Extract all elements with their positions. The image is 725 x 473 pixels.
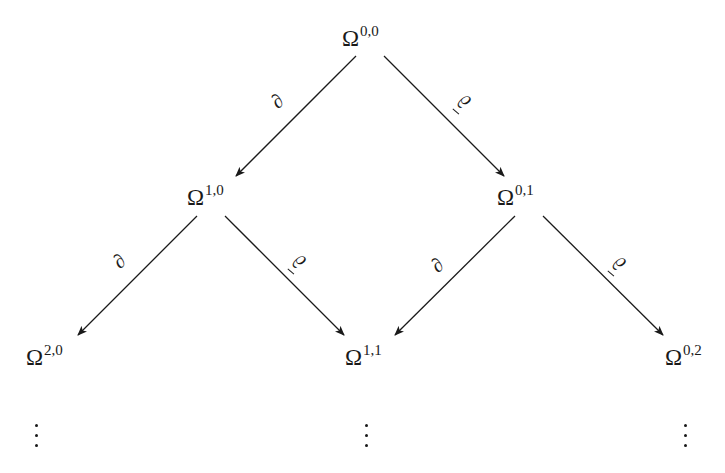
arrow-layer (0, 0, 725, 473)
bidegree: 2,0 (44, 342, 63, 358)
omega-symbol: Ω (497, 185, 514, 210)
node-omega-1-1: Ω1,1 (345, 346, 382, 369)
node-omega-0-0: Ω0,0 (342, 27, 379, 50)
omega-symbol: Ω (187, 185, 204, 210)
omega-symbol: Ω (345, 345, 362, 370)
bidegree: 1,1 (363, 342, 382, 358)
continuation-dots-right (684, 424, 688, 454)
bidegree: 1,0 (205, 182, 224, 198)
arrow-d-10-20 (78, 216, 197, 335)
bidegree: 0,2 (683, 342, 702, 358)
bidegree: 0,1 (515, 182, 534, 198)
node-omega-1-0: Ω1,0 (187, 186, 224, 209)
arrow-dbar-00-01 (384, 56, 504, 176)
omega-symbol: Ω (26, 345, 43, 370)
continuation-dots-center (365, 424, 369, 454)
node-omega-0-1: Ω0,1 (497, 186, 534, 209)
arrow-d-01-11 (395, 216, 515, 335)
continuation-dots-left (35, 424, 39, 454)
omega-symbol: Ω (665, 345, 682, 370)
omega-symbol: Ω (342, 26, 359, 51)
arrow-dbar-01-02 (543, 216, 663, 335)
bidegree: 0,0 (360, 23, 379, 39)
node-omega-2-0: Ω2,0 (26, 346, 63, 369)
arrow-d-00-10 (236, 56, 356, 176)
node-omega-0-2: Ω0,2 (665, 346, 702, 369)
arrow-dbar-10-11 (225, 216, 344, 335)
